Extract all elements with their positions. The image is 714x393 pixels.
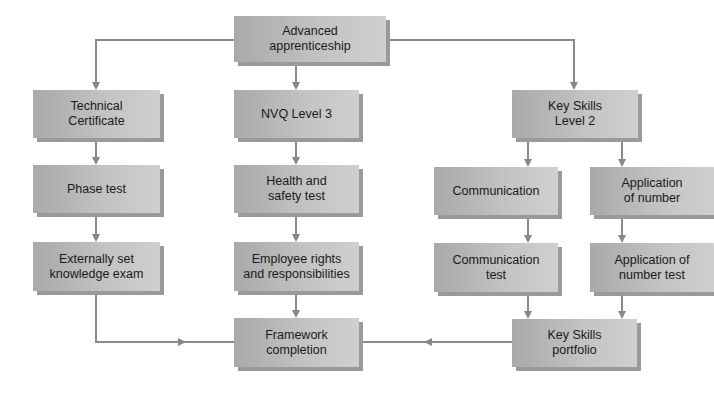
node-framework-completion: Framework completion [234,318,359,367]
node-employee-rights: Employee rights and responsibilities [234,242,359,291]
node-communication-test: Communication test [434,243,558,292]
node-phase-test: Phase test [33,165,160,213]
node-application-number-test: Application of number test [590,243,714,292]
node-key-skills-portfolio: Key Skills portfolio [512,319,637,367]
node-advanced-apprenticeship: Advanced apprenticeship [234,16,386,62]
edge-advanced-techcert [96,40,234,86]
node-technical-certificate: Technical Certificate [33,90,160,138]
flowchart: Advanced apprenticeship Technical Certif… [0,0,714,393]
node-key-skills-level-2: Key Skills Level 2 [512,90,638,138]
node-external-exam: Externally set knowledge exam [33,242,160,291]
node-communication: Communication [434,167,558,215]
edge-exam-framework [96,291,234,342]
node-nvq-level-3: NVQ Level 3 [234,90,359,138]
node-health-safety-test: Health and safety test [234,165,359,213]
edge-advanced-keyskills [386,40,574,86]
node-application-of-number: Application of number [590,167,714,215]
